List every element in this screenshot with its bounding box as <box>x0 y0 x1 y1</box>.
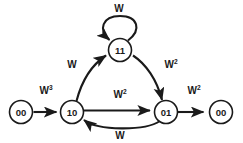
edge-11-self-loop: W <box>103 3 136 41</box>
edge-10-to-11: W <box>67 56 106 102</box>
edge-11-self-loop-label: W <box>114 3 124 14</box>
edge-11-self-loop-path <box>103 16 136 41</box>
node-01: 01 <box>155 101 178 124</box>
edge-01-to-10-path <box>84 120 160 128</box>
node-start-label: 00 <box>16 107 27 118</box>
edge-10-to-01-label: W2 <box>113 88 126 100</box>
edge-start-to-10: W3 <box>34 84 57 112</box>
state-transition-diagram: W3 W W2 W2 W W2 W <box>0 0 243 143</box>
node-11: 11 <box>109 39 132 62</box>
node-start: 00 <box>10 101 33 124</box>
node-01-label: 01 <box>161 107 172 118</box>
edge-01-to-10-label: W <box>115 130 125 141</box>
edge-10-to-11-path <box>77 56 107 102</box>
node-10-label: 10 <box>67 107 78 118</box>
node-11-label: 11 <box>115 45 126 56</box>
edge-11-to-01-label: W2 <box>164 58 177 70</box>
edge-11-to-01-path <box>133 56 162 101</box>
edge-10-to-11-label: W <box>67 59 77 70</box>
node-10: 10 <box>61 101 84 124</box>
edge-11-to-01: W2 <box>133 56 178 101</box>
node-end-label: 00 <box>216 107 227 118</box>
node-end: 00 <box>210 101 233 124</box>
edge-01-to-end: W2 <box>178 84 204 112</box>
state-diagram-container: W3 W W2 W2 W W2 W <box>0 0 243 143</box>
edge-01-to-end-label: W2 <box>187 84 200 96</box>
edge-start-to-10-label: W3 <box>39 84 52 96</box>
edge-01-to-10: W <box>84 120 160 141</box>
edge-10-to-01: W2 <box>84 88 150 111</box>
